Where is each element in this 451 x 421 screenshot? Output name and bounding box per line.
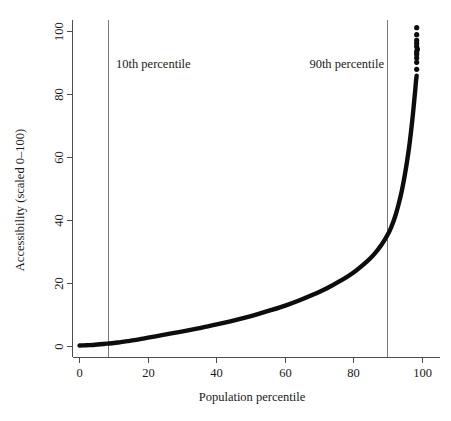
annotation-label-10th-percentile: 10th percentile — [116, 57, 191, 71]
x-tick-label-40: 40 — [210, 366, 223, 380]
y-tick-label-80: 80 — [52, 88, 66, 101]
x-tick-label-100: 100 — [413, 366, 432, 380]
data-point — [414, 32, 419, 37]
data-point — [414, 67, 419, 72]
data-point — [414, 25, 419, 30]
x-tick-label-80: 80 — [347, 366, 360, 380]
y-tick-label-60: 60 — [52, 151, 66, 164]
x-axis-title: Population percentile — [199, 390, 306, 404]
y-axis-title: Accessibility (scaled 0–100) — [13, 129, 27, 271]
x-tick-label-0: 0 — [76, 366, 82, 380]
y-tick-label-0: 0 — [52, 343, 66, 349]
annotation-label-90th-percentile: 90th percentile — [309, 57, 384, 71]
accessibility-population-percentile-chart: 10th percentile 90th percentile 0 20 40 … — [0, 0, 451, 421]
x-tick-label-60: 60 — [279, 366, 292, 380]
data-point — [414, 38, 419, 43]
chart-figure: 10th percentile 90th percentile 0 20 40 … — [0, 0, 451, 421]
y-tick-label-100: 100 — [52, 22, 66, 41]
y-tick-label-20: 20 — [52, 277, 66, 290]
x-tick-label-20: 20 — [142, 366, 155, 380]
y-tick-label-40: 40 — [52, 214, 66, 227]
